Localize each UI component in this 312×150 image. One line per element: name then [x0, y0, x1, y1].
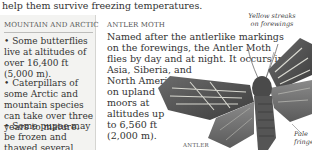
antler-moth-illustration: [150, 30, 312, 150]
sidebar-bullet: • Some pupae may be frozen and thawed se…: [4, 121, 94, 150]
callout-yellow-streaks: Yellow streaks on forewings: [248, 12, 296, 28]
intro-text: help them survive freezing temperatures.: [2, 0, 202, 11]
sidebar-title: Mountain and arctic: [4, 21, 99, 29]
sidebar-bullet: • Some butterflies live at altitudes of …: [4, 36, 94, 80]
callout-pale-fringes: Pale fringes: [294, 130, 312, 146]
sidebar-divider: [4, 32, 93, 33]
moth-image-label: Antler: [183, 142, 209, 148]
moth-section-title: Antler moth: [107, 21, 165, 29]
mountain-arctic-sidebar: Mountain and arctic • Some butterflies l…: [0, 15, 96, 150]
